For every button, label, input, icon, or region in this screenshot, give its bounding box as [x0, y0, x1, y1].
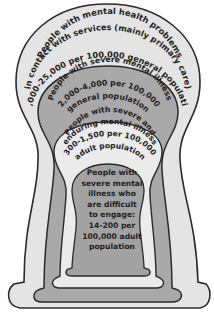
- level-4-line-4: are difficult: [72, 200, 152, 211]
- level-4-line-8: population: [72, 242, 152, 253]
- level-4-line-1: People with: [72, 168, 152, 179]
- level-4-label: People with severe mental illness who ar…: [72, 168, 152, 253]
- diagram-shapes: People with mental health problems in co…: [0, 0, 214, 326]
- nested-population-diagram: People with mental health problems in co…: [0, 0, 214, 326]
- level-4-line-3: illness who: [72, 189, 152, 200]
- level-4-line-5: to engage:: [72, 210, 152, 221]
- level-4-line-2: severe mental: [72, 179, 152, 190]
- level-4-line-7: 100,000 adult: [72, 232, 152, 243]
- level-4-line-6: 14-200 per: [72, 221, 152, 232]
